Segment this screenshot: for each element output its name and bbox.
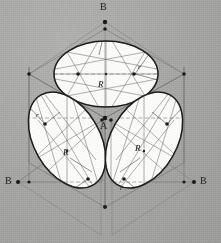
left-center-a	[43, 122, 47, 126]
top-center-upper	[103, 27, 107, 31]
left-frame-corner	[27, 180, 30, 183]
point-b-left	[16, 180, 20, 184]
right-center-upper	[182, 72, 186, 76]
top-ellipse-centre	[105, 73, 107, 75]
left-ellipse-centre	[66, 150, 68, 152]
top-center-left	[76, 72, 80, 76]
right-ellipse-centre	[143, 150, 145, 152]
top-center-right	[132, 72, 136, 76]
right-center-a	[165, 122, 169, 126]
drawing-sheet: .face { fill:#fbfbfa; stroke:#8a8a8a; st…	[0, 0, 221, 243]
right-center-b	[122, 177, 126, 181]
right-center-lower	[103, 205, 107, 209]
left-center-upper	[27, 72, 31, 76]
right-lower-apex-line	[112, 182, 194, 235]
isometric-ellipse-figure: .face { fill:#fbfbfa; stroke:#8a8a8a; st…	[0, 0, 221, 243]
point-b-top	[103, 20, 107, 24]
point-b-right	[192, 180, 196, 184]
left-lower-apex-line	[18, 182, 101, 235]
left-center-b	[86, 177, 90, 181]
right-frame-top-corner	[109, 118, 113, 122]
point-a-center	[103, 116, 107, 120]
right-frame-corner	[182, 180, 185, 183]
